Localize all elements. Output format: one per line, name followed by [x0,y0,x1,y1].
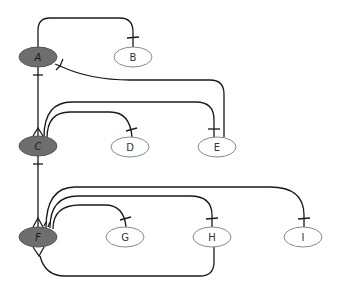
tick-mark [120,217,131,220]
node-label: E [214,142,220,153]
edge-h-f[interactable] [40,247,214,276]
node-label: D [126,142,134,153]
node-e[interactable]: E [198,137,236,157]
crows-foot-f-bottom [33,247,44,256]
diagram-canvas: A B C D E F G H [0,0,344,288]
tick-mark [127,37,139,38]
node-label: I [302,232,305,243]
edge-a-b[interactable] [38,18,133,47]
node-g[interactable]: G [106,227,144,247]
node-label: C [35,141,42,152]
node-c[interactable]: C [19,136,57,156]
node-d[interactable]: D [111,137,149,157]
nodes: A B C D E F G H [19,47,322,247]
node-a[interactable]: A [19,47,57,67]
node-label: F [35,232,41,243]
edge-f-h[interactable] [50,196,212,228]
node-label: H [208,232,216,243]
crows-foot-f-right [44,222,50,227]
node-b[interactable]: B [114,47,152,67]
tick-mark [206,218,218,219]
edge-c-d[interactable] [47,112,132,138]
node-h[interactable]: H [193,227,231,247]
node-label: B [130,52,137,63]
tick-mark [298,218,310,219]
node-f[interactable]: F [19,227,57,247]
edge-f-i[interactable] [46,187,304,228]
edges [33,18,310,276]
node-label: A [34,52,42,63]
node-i[interactable]: I [284,227,322,247]
edge-f-g[interactable] [53,205,126,229]
node-label: G [121,232,129,243]
edge-c-e[interactable] [44,102,214,137]
